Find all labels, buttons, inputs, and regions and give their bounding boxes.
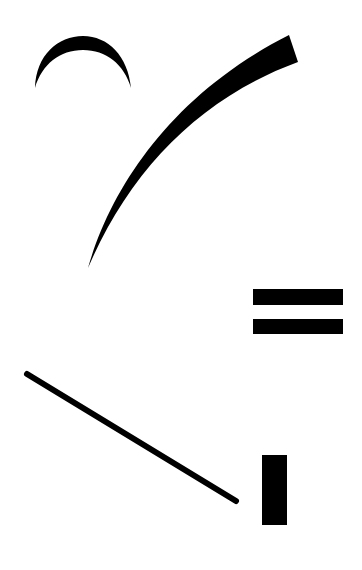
composition-canvas: Abstract composition of black shapes	[0, 0, 362, 570]
equals-bar-bottom-shape	[253, 319, 343, 334]
vertical-block-shape	[262, 455, 287, 525]
equals-bar-top-shape	[253, 289, 343, 305]
shapes-svg	[0, 0, 362, 570]
crescent-arc-shape	[35, 36, 131, 88]
diagonal-line-shape	[27, 374, 236, 501]
curved-tapered-stroke-shape	[88, 35, 298, 268]
